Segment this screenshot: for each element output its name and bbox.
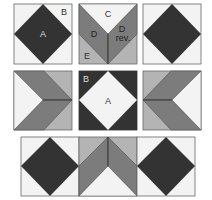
block-r3c3 [137, 137, 195, 196]
label-B: B [61, 7, 67, 17]
block-r3c1 [21, 137, 79, 196]
label-rev: rev. [116, 33, 130, 43]
block-r3c2 [79, 137, 137, 196]
label-A: A [40, 29, 46, 39]
quilt-block-diagram: A B C D D rev. E B A [0, 0, 212, 200]
label-D: D [91, 29, 98, 39]
label-B: B [83, 74, 89, 84]
block-r1c1: A B [14, 4, 72, 64]
block-r2c1 [14, 71, 72, 130]
label-E: E [84, 51, 90, 61]
label-A: A [105, 96, 111, 106]
block-r1c3 [143, 4, 201, 64]
block-r2c3 [143, 71, 201, 130]
block-r1c2: C D D rev. E [79, 4, 137, 64]
block-r2c2: B A [79, 71, 137, 130]
label-C: C [105, 9, 112, 19]
